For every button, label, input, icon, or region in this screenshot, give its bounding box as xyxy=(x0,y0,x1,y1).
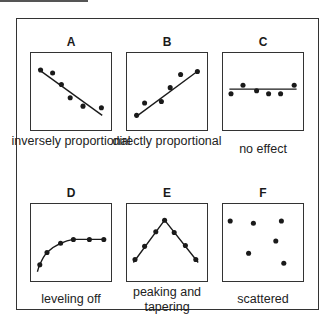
data-point xyxy=(87,237,92,242)
data-point xyxy=(142,101,147,106)
data-point xyxy=(134,113,139,118)
panel-caption: scattered xyxy=(202,292,324,307)
trend-line xyxy=(133,220,198,262)
data-point xyxy=(68,95,73,100)
panel-letter: C xyxy=(222,35,304,49)
header-rule xyxy=(0,0,88,2)
data-point xyxy=(99,105,104,110)
data-point xyxy=(193,257,198,262)
data-point xyxy=(172,230,177,235)
data-point xyxy=(251,221,256,226)
data-point xyxy=(50,70,55,75)
panel-caption: no effect xyxy=(202,142,324,157)
data-point xyxy=(142,244,147,249)
panel-letter: D xyxy=(30,186,112,200)
data-point xyxy=(278,91,283,96)
plot-box xyxy=(222,203,304,282)
data-point xyxy=(168,85,173,90)
plot-svg xyxy=(127,204,207,281)
panel-caption: leveling off xyxy=(10,292,132,307)
plot-box xyxy=(30,52,112,131)
data-point xyxy=(279,218,284,223)
data-point xyxy=(58,241,63,246)
panel-letter: E xyxy=(126,186,208,200)
data-point xyxy=(292,83,297,88)
data-point xyxy=(153,229,158,234)
plot-box xyxy=(126,52,208,131)
data-point xyxy=(178,72,183,77)
plot-svg xyxy=(31,53,111,130)
data-point xyxy=(254,88,259,93)
data-point xyxy=(71,237,76,242)
panel-letter: B xyxy=(126,35,208,49)
plot-box xyxy=(30,203,112,282)
data-point xyxy=(273,238,278,243)
data-point xyxy=(37,262,42,267)
plot-box xyxy=(222,52,304,131)
data-point xyxy=(195,69,200,74)
plot-box xyxy=(126,203,208,282)
trend-line xyxy=(136,71,198,117)
data-point xyxy=(101,237,106,242)
data-point xyxy=(228,91,233,96)
plot-svg xyxy=(223,204,303,281)
data-point xyxy=(228,218,233,223)
data-point xyxy=(162,218,167,223)
panel-letter: A xyxy=(30,35,112,49)
data-point xyxy=(281,261,286,266)
data-point xyxy=(44,250,49,255)
data-point xyxy=(246,251,251,256)
trend-line xyxy=(37,239,105,271)
plot-svg xyxy=(127,53,207,130)
data-point xyxy=(183,243,188,248)
plot-svg xyxy=(31,204,111,281)
data-point xyxy=(38,67,43,72)
data-point xyxy=(266,91,271,96)
data-point xyxy=(240,83,245,88)
data-point xyxy=(80,104,85,109)
trend-line xyxy=(38,69,102,115)
data-point xyxy=(159,99,164,104)
data-point xyxy=(59,82,64,87)
data-point xyxy=(132,257,137,262)
panel-letter: F xyxy=(222,186,304,200)
plot-svg xyxy=(223,53,303,130)
